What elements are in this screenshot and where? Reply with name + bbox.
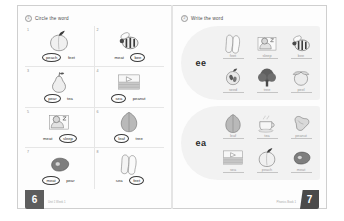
bee-icon	[289, 33, 313, 54]
section-heading-circle-the-word: 1 Circle the word	[25, 15, 69, 22]
item-number: 3	[27, 69, 29, 73]
word-answer-line[interactable]: bee	[291, 54, 312, 60]
leaf-icon	[116, 111, 142, 133]
page-number-right: 7	[300, 190, 319, 209]
choice-option[interactable]: sleep	[59, 134, 77, 143]
choice-row: leaf tree	[114, 134, 144, 143]
section-heading-write-the-word: 2 Write the word	[181, 15, 223, 22]
feet-icon	[116, 153, 142, 175]
section-title: Circle the word	[35, 16, 69, 21]
choice-option[interactable]: pear	[44, 94, 60, 103]
phonics-block-ee: ee feet	[181, 26, 320, 100]
word-answer-line[interactable]: feet	[223, 54, 244, 60]
circle-the-word-grid: 1 peach feet 2	[25, 26, 164, 189]
item-number: 2	[97, 28, 99, 32]
word-answer-line[interactable]: leaf	[223, 134, 244, 140]
choice-row: meat bee	[113, 53, 145, 62]
exercise-item-7[interactable]: 7 meat pear	[25, 148, 95, 189]
item-number: 1	[27, 28, 29, 32]
word-answer-line[interactable]: meat	[291, 168, 312, 174]
exercise-item-8[interactable]: 8 sea feet	[95, 148, 165, 189]
choice-option[interactable]: tea	[66, 95, 75, 101]
word-answer-line[interactable]: peel	[291, 88, 312, 94]
worksheet-spread: 1 Circle the word 1 peach feet	[0, 0, 344, 221]
write-item[interactable]: peach	[250, 143, 284, 177]
block-label-ea: ea	[187, 106, 215, 180]
meat-icon	[289, 147, 313, 168]
exercise-item-2[interactable]: 2 meat bee	[95, 26, 165, 67]
exercise-item-4[interactable]: 4 sea peanut	[95, 67, 165, 108]
write-item[interactable]: seed	[216, 63, 250, 97]
exercise-item-6[interactable]: 6 leaf tree	[95, 108, 165, 149]
sleep-icon	[255, 33, 279, 54]
choice-option[interactable]: bee	[130, 53, 145, 62]
tea-icon	[255, 113, 279, 134]
exercise-item-3[interactable]: 3 pear tea	[25, 67, 95, 108]
section-title: Write the word	[191, 16, 223, 21]
sea-icon	[116, 71, 142, 93]
choice-row: sea feet	[114, 176, 144, 185]
choice-option[interactable]: meat	[42, 176, 59, 185]
phonics-block-ea: ea leaf	[181, 106, 320, 180]
word-answer-line[interactable]: sea	[223, 168, 244, 174]
right-page: 2 Write the word ee feet	[173, 5, 327, 209]
choice-row: pear tea	[44, 94, 74, 103]
word-answer-line[interactable]: tea	[257, 134, 278, 140]
choice-option[interactable]: sea	[111, 94, 126, 103]
choice-option[interactable]: meat	[42, 136, 54, 142]
block-items-ea: leaf tea	[216, 109, 318, 177]
word-answer-line[interactable]: seed	[223, 88, 244, 94]
peel-icon	[289, 67, 313, 88]
item-number: 6	[97, 110, 99, 114]
choice-option[interactable]: tree	[134, 136, 144, 142]
block-label-ee: ee	[187, 26, 215, 100]
item-number: 7	[27, 150, 29, 154]
section-number: 2	[181, 15, 188, 22]
write-item[interactable]: bee	[284, 29, 318, 63]
tree-icon	[255, 67, 279, 88]
write-item[interactable]: feet	[216, 29, 250, 63]
word-answer-line[interactable]: peanut	[291, 134, 312, 140]
word-answer-line[interactable]: tree	[257, 88, 278, 94]
peanut-icon	[289, 113, 313, 134]
choice-row: meat sleep	[42, 134, 77, 143]
left-page: 1 Circle the word 1 peach feet	[17, 5, 172, 209]
meat-icon	[46, 153, 72, 175]
choice-option[interactable]: meat	[113, 54, 125, 60]
choice-option[interactable]: pear	[65, 177, 76, 183]
leaf-icon	[221, 113, 245, 134]
pear-icon	[46, 71, 72, 93]
feet-icon	[221, 33, 245, 54]
write-item[interactable]: sea	[216, 143, 250, 177]
choice-option[interactable]: feet	[129, 176, 144, 185]
footnote-left: Unit 1 Week 1	[48, 200, 66, 204]
write-item[interactable]: leaf	[216, 109, 250, 143]
item-number: 5	[27, 110, 29, 114]
choice-option[interactable]: peach	[42, 53, 61, 62]
seed-icon	[221, 67, 245, 88]
page-number-left: 6	[25, 190, 44, 209]
word-answer-line[interactable]: sleep	[257, 54, 278, 60]
exercise-item-5[interactable]: 5 meat sleep	[25, 108, 95, 149]
choice-row: peach feet	[42, 53, 76, 62]
write-item[interactable]: peel	[284, 63, 318, 97]
write-item[interactable]: meat	[284, 143, 318, 177]
exercise-item-1[interactable]: 1 peach feet	[25, 26, 95, 67]
write-item[interactable]: tea	[250, 109, 284, 143]
section-number: 1	[25, 15, 32, 22]
sea-icon	[221, 147, 245, 168]
peach-icon	[255, 147, 279, 168]
choice-option[interactable]: leaf	[114, 134, 129, 143]
word-answer-line[interactable]: peach	[257, 168, 278, 174]
choice-option[interactable]: sea	[114, 177, 124, 183]
choice-option[interactable]: peanut	[131, 95, 147, 101]
choice-row: sea peanut	[111, 94, 147, 103]
footnote-right: Phonics Book 1	[277, 200, 296, 204]
choice-option[interactable]: feet	[66, 54, 76, 60]
bee-icon	[116, 30, 142, 52]
write-item[interactable]: peanut	[284, 109, 318, 143]
write-item[interactable]: sleep	[250, 29, 284, 63]
write-item[interactable]: tree	[250, 63, 284, 97]
choice-row: meat pear	[42, 176, 76, 185]
block-items-ee: feet sleep	[216, 29, 318, 97]
